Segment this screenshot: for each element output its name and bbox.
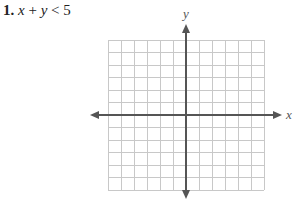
y-axis-label: y <box>183 6 189 22</box>
y-axis-up-arrow <box>182 24 190 33</box>
x-axis-left-arrow <box>90 111 99 119</box>
coordinate-grid <box>0 0 303 201</box>
y-axis-down-arrow <box>182 190 190 199</box>
x-axis-right-arrow <box>273 111 282 119</box>
x-axis-label: x <box>286 107 292 123</box>
